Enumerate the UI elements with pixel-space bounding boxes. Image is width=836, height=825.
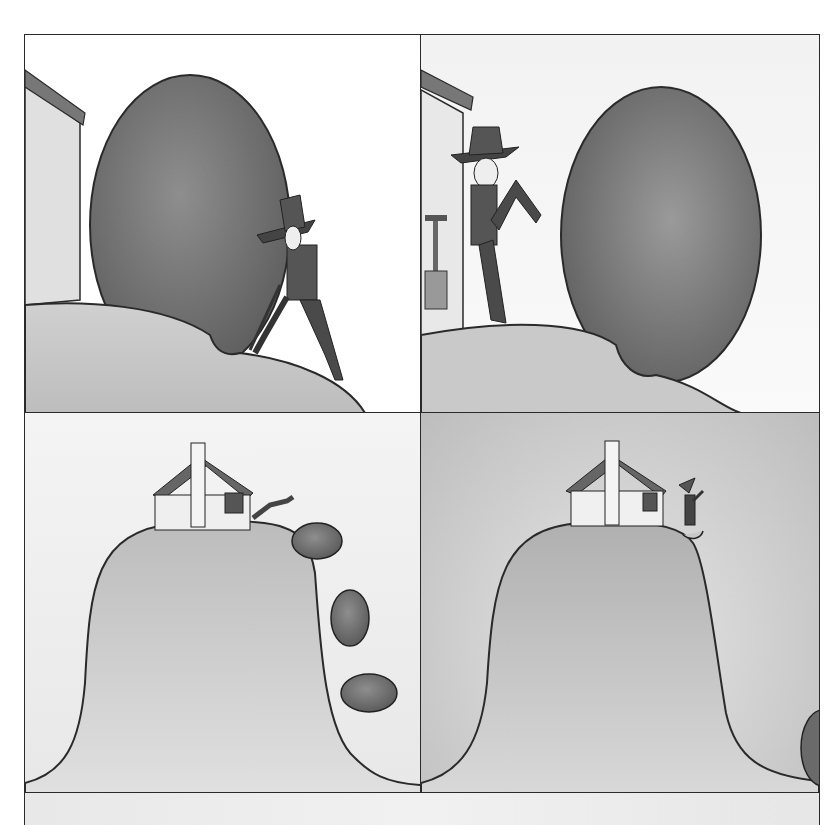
- man-kicking: [451, 127, 541, 323]
- boulder-2: [331, 590, 369, 646]
- boulder-1: [292, 523, 342, 559]
- boulder-at-bottom: [801, 710, 819, 786]
- bell-hill: [25, 521, 421, 793]
- house: [566, 441, 666, 526]
- house: [153, 443, 253, 530]
- panel-4: [421, 413, 819, 793]
- panel-5-partial: [25, 793, 819, 825]
- house-wall: [25, 70, 85, 305]
- panel-1: [25, 35, 421, 413]
- panel-2: [421, 35, 819, 413]
- man-falling: [253, 497, 293, 518]
- bell-hill: [421, 522, 819, 793]
- bite-notch: [683, 531, 703, 538]
- man-celebrating: [679, 478, 703, 525]
- boulder-3: [341, 674, 397, 712]
- panel-3: [25, 413, 421, 793]
